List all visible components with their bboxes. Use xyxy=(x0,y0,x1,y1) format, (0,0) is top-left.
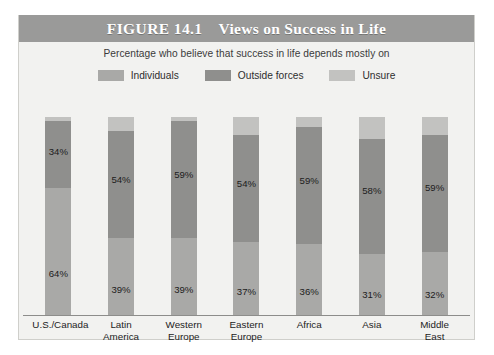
bar-segment-value-label: 34% xyxy=(49,146,68,157)
figure-number: FIGURE 14.1 xyxy=(107,20,203,38)
bar-segment-individuals: 39% xyxy=(171,238,197,315)
bar-segment-value-label: 54% xyxy=(111,174,130,185)
bar-segment-value-label: 37% xyxy=(237,286,256,297)
stacked-bar: 34%64% xyxy=(45,117,71,315)
x-axis-label-line: Europe xyxy=(158,331,210,343)
bar-segment-individuals: 39% xyxy=(108,238,134,315)
legend-label-individuals: Individuals xyxy=(131,70,179,81)
bar-segment-outside-forces: 54% xyxy=(233,135,259,242)
legend-swatch-outside-forces-icon xyxy=(205,70,231,81)
bar-segment-outside-forces: 59% xyxy=(296,127,322,244)
bar-segment-value-label: 64% xyxy=(49,268,68,279)
bar-column: 58%31% xyxy=(346,93,398,315)
x-axis-label-line: Africa xyxy=(283,319,335,331)
bar-segment-unsure xyxy=(108,117,134,131)
bar-column: 54%37% xyxy=(220,93,272,315)
bar-segment-value-label: 39% xyxy=(111,284,130,295)
x-axis-category-labels: U.S./CanadaLatinAmericaWesternEuropeEast… xyxy=(27,319,466,343)
figure-title: Views on Success in Life xyxy=(219,20,387,38)
x-axis-label-line: Western xyxy=(158,319,210,331)
legend-item-individuals: Individuals xyxy=(98,70,179,81)
x-axis-label: WesternEurope xyxy=(158,319,210,343)
bar-segment-outside-forces: 59% xyxy=(171,121,197,238)
x-axis-label-line: Latin xyxy=(95,319,147,331)
bar-segment-value-label: 59% xyxy=(425,182,444,193)
bar-segment-individuals: 37% xyxy=(233,242,259,315)
stacked-bar: 59%36% xyxy=(296,117,322,315)
figure-subtitle: Percentage who believe that success in l… xyxy=(19,48,474,59)
bar-segment-value-label: 32% xyxy=(425,289,444,300)
legend-item-unsure: Unsure xyxy=(329,70,395,81)
bar-column: 54%39% xyxy=(95,93,147,315)
x-axis-label-line: U.S./Canada xyxy=(32,319,84,331)
stacked-bar-group: 34%64%54%39%59%39%54%37%59%36%58%31%59%3… xyxy=(27,93,466,315)
x-axis-label-line: Middle xyxy=(409,319,461,331)
stacked-bar: 59%32% xyxy=(422,117,448,315)
bar-segment-outside-forces: 58% xyxy=(359,139,385,254)
x-axis-label-line: America xyxy=(95,331,147,343)
x-axis-label-line: Asia xyxy=(346,319,398,331)
legend-label-unsure: Unsure xyxy=(362,70,395,81)
bar-segment-outside-forces: 54% xyxy=(108,131,134,238)
bar-segment-value-label: 58% xyxy=(362,185,381,196)
figure-panel: FIGURE 14.1 Views on Success in Life Per… xyxy=(18,15,475,340)
stacked-bar: 54%39% xyxy=(108,117,134,315)
bar-segment-individuals: 64% xyxy=(45,188,71,315)
bar-column: 59%36% xyxy=(283,93,335,315)
bar-segment-value-label: 36% xyxy=(300,286,319,297)
x-axis-label: LatinAmerica xyxy=(95,319,147,343)
bar-segment-individuals: 31% xyxy=(359,254,385,315)
x-axis-label: MiddleEast xyxy=(409,319,461,343)
legend-swatch-unsure-icon xyxy=(329,70,355,81)
x-axis-label: U.S./Canada xyxy=(32,319,84,331)
bar-segment-unsure xyxy=(233,117,259,135)
bar-segment-individuals: 32% xyxy=(422,252,448,315)
stacked-bar: 54%37% xyxy=(233,117,259,315)
bar-segment-value-label: 54% xyxy=(237,178,256,189)
bar-segment-outside-forces: 59% xyxy=(422,135,448,252)
bar-column: 59%32% xyxy=(409,93,461,315)
bar-segment-individuals: 36% xyxy=(296,244,322,315)
x-axis-line xyxy=(23,315,470,316)
bar-segment-outside-forces: 34% xyxy=(45,121,71,188)
legend-item-outside-forces: Outside forces xyxy=(205,70,304,81)
legend-label-outside-forces: Outside forces xyxy=(238,70,304,81)
bar-segment-unsure xyxy=(422,117,448,135)
stacked-bar: 58%31% xyxy=(359,117,385,315)
x-axis-label-line: Europe xyxy=(220,331,272,343)
chart-legend: Individuals Outside forces Unsure xyxy=(19,70,474,81)
bar-segment-value-label: 31% xyxy=(362,289,381,300)
plot-area: 34%64%54%39%59%39%54%37%59%36%58%31%59%3… xyxy=(19,93,474,315)
x-axis-label: EasternEurope xyxy=(220,319,272,343)
x-axis-label-line: Eastern xyxy=(220,319,272,331)
x-axis-label: Asia xyxy=(346,319,398,331)
figure-title-band: FIGURE 14.1 Views on Success in Life xyxy=(19,15,474,42)
bar-column: 34%64% xyxy=(32,93,84,315)
bar-segment-unsure xyxy=(359,117,385,139)
bar-segment-unsure xyxy=(296,117,322,127)
bar-segment-value-label: 59% xyxy=(300,175,319,186)
bar-segment-value-label: 59% xyxy=(174,169,193,180)
bar-segment-value-label: 39% xyxy=(174,284,193,295)
bar-column: 59%39% xyxy=(158,93,210,315)
stacked-bar: 59%39% xyxy=(171,117,197,315)
x-axis-label-line: East xyxy=(409,331,461,343)
x-axis-label: Africa xyxy=(283,319,335,331)
legend-swatch-individuals-icon xyxy=(98,70,124,81)
